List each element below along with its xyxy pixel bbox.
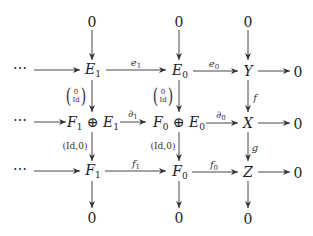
node-bottom-zero-2: 0 bbox=[175, 210, 184, 226]
label-e0: e0 bbox=[209, 58, 219, 71]
label-f0: f0 bbox=[210, 159, 218, 172]
node-bottom-zero-1: 0 bbox=[88, 210, 97, 226]
node-row3-dots: ⋯ bbox=[13, 161, 27, 177]
node-X: X bbox=[243, 115, 253, 131]
node-E0: E0 bbox=[172, 62, 188, 80]
node-row1-dots: ⋯ bbox=[13, 60, 27, 76]
node-F0: F0 bbox=[172, 163, 187, 181]
label-d1: ∂1 bbox=[128, 108, 138, 121]
node-row3-zero: 0 bbox=[294, 165, 303, 181]
node-F1: F1 bbox=[85, 162, 100, 180]
label-f1: f1 bbox=[132, 158, 140, 171]
label-inclusion-0: (0Id) bbox=[152, 86, 175, 106]
node-top-zero-3: 0 bbox=[244, 14, 253, 30]
node-Z: Z bbox=[243, 164, 253, 180]
node-top-zero-1: 0 bbox=[88, 14, 97, 30]
node-row2-zero: 0 bbox=[294, 116, 303, 132]
node-bottom-zero-3: 0 bbox=[244, 211, 253, 227]
node-row1-zero: 0 bbox=[294, 64, 303, 80]
node-row2-dots: ⋯ bbox=[13, 112, 27, 128]
label-e1: e1 bbox=[131, 57, 141, 70]
label-d0: ∂0 bbox=[216, 109, 226, 122]
label-f: f bbox=[253, 92, 257, 103]
label-projection-1: (Id,0) bbox=[63, 141, 88, 151]
node-F0-oplus-E0: F0 ⊕ E0 bbox=[153, 114, 205, 132]
label-g: g bbox=[252, 142, 258, 153]
label-inclusion-1: (0Id) bbox=[65, 86, 88, 106]
node-E1: E1 bbox=[85, 61, 101, 79]
label-projection-0: (Id,0) bbox=[151, 141, 176, 151]
node-top-zero-2: 0 bbox=[175, 14, 184, 30]
node-F1-oplus-E1: F1 ⊕ E1 bbox=[67, 114, 119, 132]
node-Y: Y bbox=[243, 63, 252, 79]
